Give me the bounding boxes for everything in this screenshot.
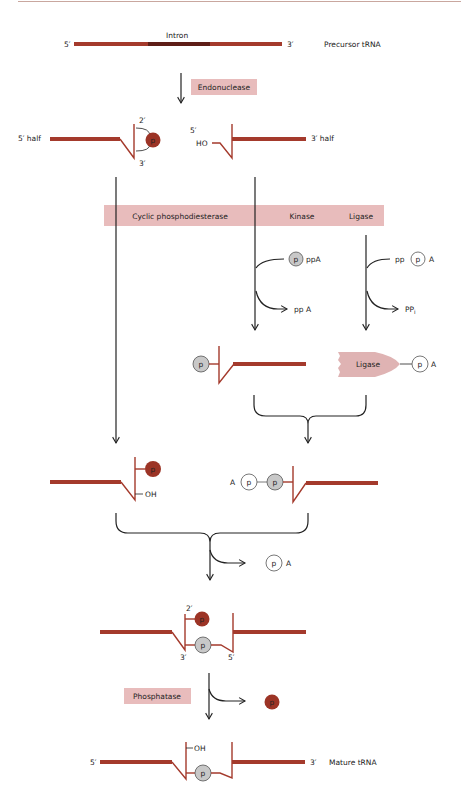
two-prime-label: 2′: [139, 116, 146, 125]
five-prime-half: 5′ half 2′ 3′ p: [18, 116, 161, 168]
three-prime-half: 5′ HO 3′ half: [190, 124, 334, 158]
three-prime-half-label: 3′ half: [311, 134, 334, 143]
adenylated-3prime-half: A p p: [230, 466, 378, 502]
kinase-branch: p ppA pp A: [256, 252, 322, 314]
svg-text:p: p: [200, 615, 205, 624]
five-prime-half-opened: p OH: [50, 457, 161, 500]
trna-splicing-diagram: Intron 5′ 3′ Precursor tRNA Endonuclease…: [0, 0, 461, 807]
svg-text:p: p: [273, 478, 278, 487]
adenylated-ligase: Ligase p A: [338, 352, 437, 377]
svg-text:p: p: [201, 769, 206, 778]
enzyme-ligase: Ligase: [349, 212, 374, 221]
ligase-atp-pp: pp: [395, 255, 405, 264]
svg-text:p: p: [199, 360, 204, 369]
kinase-atp-suffix: ppA: [306, 255, 322, 264]
merge-brace-2: [116, 513, 308, 542]
enzyme-kinase: Kinase: [290, 212, 315, 221]
ligase-output-ppi: PPi: [405, 305, 416, 315]
precursor-trna: Intron 5′ 3′ Precursor tRNA: [64, 31, 382, 49]
svg-text:p: p: [416, 255, 421, 264]
precursor-5prime: 5′: [64, 40, 71, 49]
phosphatase-label: Phosphatase: [133, 692, 181, 701]
cyclic-phosphate-label: p: [151, 136, 156, 145]
joined-2prime: 2′: [186, 604, 193, 613]
svg-text:p: p: [270, 698, 275, 707]
ligase-amp-a: A: [431, 360, 437, 369]
endonuclease-label: Endonuclease: [198, 83, 251, 92]
merge-brace-1: [254, 395, 366, 424]
svg-text:p: p: [151, 465, 156, 474]
ho-label: HO: [196, 139, 208, 148]
mature-trna: 5′ OH p 3′ Mature tRNA: [90, 742, 377, 781]
five-prime-half-label: 5′ half: [18, 134, 41, 143]
mature-label: Mature tRNA: [329, 758, 377, 767]
released-amp-a: A: [286, 559, 292, 568]
phosphorylated-3prime-half: p: [193, 346, 306, 383]
mature-3prime: 3′: [310, 758, 317, 767]
svg-text:p: p: [294, 255, 299, 264]
mature-oh: OH: [194, 744, 206, 753]
joined-3prime: 3′: [180, 653, 187, 662]
mature-5prime: 5′: [90, 758, 97, 767]
svg-text:p: p: [247, 478, 252, 487]
enzyme-cyclic-phosphodiesterase: Cyclic phosphodiesterase: [132, 212, 228, 221]
precursor-3prime: 3′: [287, 40, 294, 49]
three-prime-label: 3′: [139, 159, 146, 168]
precursor-label: Precursor tRNA: [324, 40, 382, 49]
ligated-intermediate: 2′ p p 3′ 5′: [100, 604, 306, 662]
joined-5prime: 5′: [228, 653, 235, 662]
svg-text:p: p: [272, 559, 277, 568]
kinase-output-ppa: pp A: [294, 305, 312, 314]
intron-label: Intron: [166, 31, 188, 40]
oh-label: OH: [145, 490, 157, 499]
ligase-shape-label: Ligase: [356, 360, 381, 369]
svg-text:p: p: [201, 641, 206, 650]
right-5prime-label: 5′: [190, 126, 197, 135]
ligase-atp-a: A: [429, 255, 435, 264]
svg-text:p: p: [418, 360, 423, 369]
adenylate-a: A: [230, 478, 236, 487]
ligase-branch: pp p A PPi: [367, 252, 435, 315]
